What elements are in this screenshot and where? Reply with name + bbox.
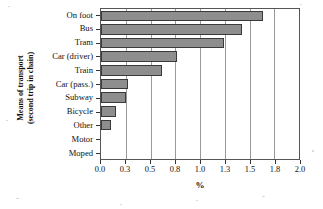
x-tick-label: 0.8	[170, 165, 180, 175]
bar-row	[101, 104, 299, 118]
bar	[101, 79, 128, 90]
bar-row	[101, 36, 299, 50]
category-label: Train	[30, 63, 96, 77]
category-label: Car (driver)	[30, 49, 96, 63]
bar	[101, 65, 162, 76]
bar	[101, 24, 242, 35]
bar-row	[101, 118, 299, 132]
bar-row	[101, 23, 299, 37]
scan-artifact	[6, 120, 8, 121]
category-axis-labels: On footBusTramCar (driver)TrainCar (pass…	[30, 8, 96, 160]
bar-row	[101, 145, 299, 159]
category-label: Other	[30, 119, 96, 133]
category-label: Bicycle	[30, 105, 96, 119]
bar-row	[101, 50, 299, 64]
category-label: Subway	[30, 91, 96, 105]
x-tick-label: 0.3	[120, 165, 130, 175]
y-axis-title-line-1: Means of transport	[16, 18, 26, 158]
x-axis-tick-marks	[100, 160, 300, 164]
x-tick-label: 2.0	[295, 165, 305, 175]
category-label: Car (pass.)	[30, 77, 96, 91]
bar	[101, 92, 126, 103]
x-tick-mark	[250, 160, 251, 164]
bar	[101, 120, 111, 131]
x-tick-label: 0.0	[95, 165, 105, 175]
category-label: Bus	[30, 22, 96, 36]
x-tick-label: 1.8	[270, 165, 280, 175]
bar	[101, 106, 116, 117]
bar-row	[101, 77, 299, 91]
x-tick-label: 0.5	[145, 165, 155, 175]
scan-artifact	[262, 196, 265, 197]
scan-artifact	[16, 198, 19, 199]
x-tick-label: 1.0	[195, 165, 205, 175]
scan-artifact	[8, 6, 10, 7]
plot-area	[100, 8, 300, 160]
x-tick-mark	[175, 160, 176, 164]
scan-artifact	[312, 150, 314, 152]
bar-row	[101, 132, 299, 146]
x-tick-mark	[300, 160, 301, 164]
x-tick-mark	[100, 160, 101, 164]
category-label: Tram	[30, 36, 96, 50]
x-tick-label: 1.5	[245, 165, 255, 175]
bar-chart: Means of transport (second trip in chain…	[0, 0, 323, 209]
x-axis-title: %	[100, 180, 300, 190]
scan-artifact	[300, 4, 302, 5]
scan-artifact	[196, 200, 198, 201]
x-tick-label: 1.3	[220, 165, 230, 175]
scan-artifact	[120, 204, 122, 205]
x-tick-mark	[125, 160, 126, 164]
x-tick-mark	[150, 160, 151, 164]
bar-row	[101, 64, 299, 78]
category-label: Motor	[30, 132, 96, 146]
x-tick-mark	[275, 160, 276, 164]
bar-row	[101, 9, 299, 23]
x-tick-mark	[225, 160, 226, 164]
category-label: Moped	[30, 146, 96, 160]
bar-row	[101, 91, 299, 105]
bar	[101, 51, 177, 62]
x-axis-tick-labels: 0.00.30.50.81.01.31.51.82.0	[100, 165, 300, 177]
bar-series	[101, 9, 299, 159]
category-label: On foot	[30, 8, 96, 22]
x-tick-mark	[200, 160, 201, 164]
bar	[101, 38, 224, 49]
bar	[101, 11, 263, 22]
